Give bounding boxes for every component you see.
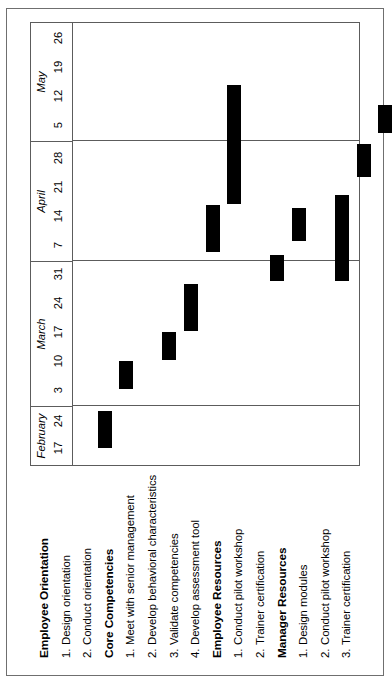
task-number: 3. [164, 645, 186, 658]
month-cell-april: April 7 14 21 28 [31, 141, 73, 261]
task-label: Conduct pilot workshop [319, 529, 331, 645]
gantt-bar-employee-conduct-pilot-workshop[interactable] [270, 255, 284, 281]
tick-label: 31 [52, 263, 64, 285]
task-row-label: 1.Design modules [293, 474, 315, 658]
task-label-column: Employee Orientation 1.Design orientatio… [30, 466, 360, 662]
month-name: March [35, 262, 47, 406]
group-heading-core-competencies: Core Competencies [99, 474, 121, 658]
tick-label: 26 [52, 27, 64, 49]
task-row-label: 2.Develop behavioral characteristics [142, 474, 164, 658]
task-label: Validate competencies [168, 533, 180, 645]
gantt-bar-design-modules[interactable] [335, 195, 349, 281]
bar-lane [224, 23, 246, 465]
tick-label: 10 [52, 350, 64, 372]
task-label: Conduct pilot workshop [232, 529, 244, 645]
task-number: 2. [142, 645, 164, 658]
month-name: May [35, 23, 47, 141]
group-heading-manager-resources: Manager Resources [272, 474, 294, 658]
gantt-bar-develop-assessment-tool[interactable] [227, 85, 241, 204]
bar-lane [203, 23, 225, 465]
task-number: 3. [336, 645, 358, 658]
timeline-header: February 17 24 March 3 10 17 24 31 April [31, 23, 73, 465]
tick-label: 19 [52, 56, 64, 78]
bar-lane [159, 23, 181, 465]
task-row-label: 2.Conduct pilot workshop [315, 474, 337, 658]
tick-label: 24 [52, 292, 64, 314]
gantt-chart: Employee Orientation 1.Design orientatio… [30, 22, 360, 662]
task-number: 2. [315, 645, 337, 658]
task-number: 1. [228, 645, 250, 658]
bar-lane [354, 23, 376, 465]
gantt-bar-develop-behavioral-characteristics[interactable] [184, 284, 198, 331]
gantt-plot-area: February 17 24 March 3 10 17 24 31 April [30, 22, 360, 466]
gantt-bars-area [73, 23, 359, 465]
task-row-label: 1.Design orientation [56, 474, 78, 658]
task-label: Trainer certification [340, 551, 352, 645]
task-number: 2. [77, 645, 99, 658]
gantt-bar-employee-trainer-certification[interactable] [292, 208, 306, 241]
task-label: Trainer certification [254, 551, 266, 645]
task-label: Design orientation [60, 555, 72, 645]
task-label: Develop behavioral characteristics [146, 475, 158, 645]
task-label: Meet with senior management [124, 495, 136, 645]
gantt-bar-validate-competencies[interactable] [206, 205, 220, 252]
gantt-bar-manager-conduct-pilot-workshop[interactable] [357, 144, 371, 177]
month-cell-may: May 5 12 19 26 [31, 23, 73, 141]
gantt-bar-meet-senior-management[interactable] [162, 332, 176, 360]
tick-label: 14 [52, 205, 64, 227]
task-row-label: 3.Trainer certification [336, 474, 358, 658]
tick-label: 24 [52, 410, 64, 432]
task-row-label: 2.Conduct orientation [77, 474, 99, 658]
bar-lane [116, 23, 138, 465]
gantt-bar-design-orientation[interactable] [98, 411, 112, 448]
month-cell-march: March 3 10 17 24 31 [31, 261, 73, 406]
tick-label: 12 [52, 85, 64, 107]
task-label: Conduct orientation [81, 548, 93, 645]
tick-label: 28 [52, 147, 64, 169]
task-row-label: 1.Conduct pilot workshop [228, 474, 250, 658]
tick-label: 3 [52, 379, 64, 401]
task-row-label: 1.Meet with senior management [120, 474, 142, 658]
tick-label: 7 [52, 234, 64, 256]
task-number: 4. [185, 645, 207, 658]
page-frame: Employee Orientation 1.Design orientatio… [6, 8, 384, 676]
task-label: Develop assessment tool [189, 520, 201, 645]
task-number: 1. [293, 645, 315, 658]
gantt-inner: Employee Orientation 1.Design orientatio… [30, 22, 360, 662]
tick-label: 17 [52, 437, 64, 459]
month-name: April [35, 142, 47, 261]
month-cell-february: February 17 24 [31, 406, 73, 465]
gantt-bar-manager-trainer-certification[interactable] [378, 105, 392, 133]
tick-label: 21 [52, 176, 64, 198]
bar-lane [289, 23, 311, 465]
task-number: 1. [56, 645, 78, 658]
tick-label: 5 [52, 114, 64, 136]
task-label: Design modules [297, 565, 309, 645]
task-number: 2. [250, 645, 272, 658]
tick-label: 17 [52, 321, 64, 343]
group-heading-employee-resources: Employee Resources [207, 474, 229, 658]
bar-lane [95, 23, 117, 465]
task-number: 1. [120, 645, 142, 658]
bar-lane [332, 23, 354, 465]
bar-lane [181, 23, 203, 465]
group-heading-employee-orientation: Employee Orientation [34, 474, 56, 658]
task-row-label: 2.Trainer certification [250, 474, 272, 658]
task-row-label: 4.Develop assessment tool [185, 474, 207, 658]
task-row-label: 3.Validate competencies [164, 474, 186, 658]
month-name: February [35, 407, 47, 465]
bar-lane [375, 23, 392, 465]
bar-lane [267, 23, 289, 465]
gantt-bar-conduct-orientation[interactable] [119, 361, 133, 389]
